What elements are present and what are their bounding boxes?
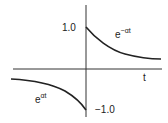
y-tick-1: 1.0: [62, 23, 76, 33]
y-tick-neg1: −1.0: [95, 105, 115, 115]
plot-area: [0, 0, 168, 123]
label-growth: eαt: [35, 93, 47, 105]
x-axis-label: t: [143, 73, 146, 83]
curve-growth: [11, 79, 86, 110]
label-decay: e−αt: [115, 28, 131, 40]
